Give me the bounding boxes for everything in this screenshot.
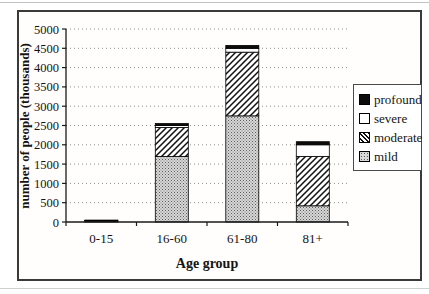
y-tick-label: 0 bbox=[53, 216, 59, 230]
x-category-label: 16-60 bbox=[157, 231, 187, 246]
y-tick-label: 4500 bbox=[34, 42, 59, 56]
y-tick-label: 4000 bbox=[34, 61, 59, 75]
legend-label: profound bbox=[374, 93, 422, 106]
x-category-label: 61-80 bbox=[227, 231, 257, 246]
bar-81+-moderate bbox=[296, 156, 329, 205]
bar-0-15-profound bbox=[85, 220, 118, 221]
legend-swatch-white-icon bbox=[359, 113, 370, 124]
y-tick-label: 5000 bbox=[34, 23, 59, 37]
bar-61-80-severe bbox=[226, 48, 259, 52]
chart-legend: profoundseveremoderatemild bbox=[353, 84, 422, 171]
legend-label: mild bbox=[374, 150, 398, 163]
bar-81+-mild bbox=[296, 206, 329, 222]
y-tick-label: 2000 bbox=[34, 138, 59, 152]
y-axis-title: number of people (thousands) bbox=[17, 43, 32, 209]
y-tick-labels: 0500100015002000250030003500400045005000 bbox=[34, 23, 59, 230]
legend-item-severe: severe bbox=[359, 109, 418, 128]
legend-item-moderate: moderate bbox=[359, 128, 418, 147]
y-tick-label: 1500 bbox=[34, 158, 59, 172]
legend-label: severe bbox=[374, 112, 407, 125]
x-category-label: 0-15 bbox=[89, 231, 113, 246]
legend-item-mild: mild bbox=[359, 147, 418, 166]
x-category-label: 81+ bbox=[303, 231, 323, 246]
legend-label: moderate bbox=[374, 131, 422, 144]
x-axis-title: Age group bbox=[176, 256, 239, 271]
bar-61-80-profound bbox=[226, 45, 259, 48]
bar-81+-severe bbox=[296, 145, 329, 157]
legend-item-profound: profound bbox=[359, 90, 418, 109]
bar-16-60-moderate bbox=[155, 127, 188, 156]
x-category-labels: 0-1516-6061-8081+ bbox=[89, 231, 323, 246]
legend-swatch-black-icon bbox=[359, 94, 370, 105]
bar-16-60-profound bbox=[155, 124, 188, 126]
legend-swatch-speckle-icon bbox=[359, 151, 370, 162]
bars bbox=[85, 45, 329, 222]
y-tick-label: 2500 bbox=[34, 119, 59, 133]
bar-16-60-mild bbox=[155, 156, 188, 222]
y-tick-label: 3000 bbox=[34, 100, 59, 114]
y-tick-label: 3500 bbox=[34, 80, 59, 94]
scanned-chart-figure: 0500100015002000250030003500400045005000… bbox=[0, 0, 429, 294]
y-tick-label: 1000 bbox=[34, 177, 59, 191]
legend-swatch-diagonal-hatch-icon bbox=[359, 132, 370, 143]
bar-61-80-moderate bbox=[226, 52, 259, 116]
bar-61-80-mild bbox=[226, 116, 259, 222]
bar-81+-profound bbox=[296, 142, 329, 145]
y-tick-label: 500 bbox=[40, 196, 59, 210]
